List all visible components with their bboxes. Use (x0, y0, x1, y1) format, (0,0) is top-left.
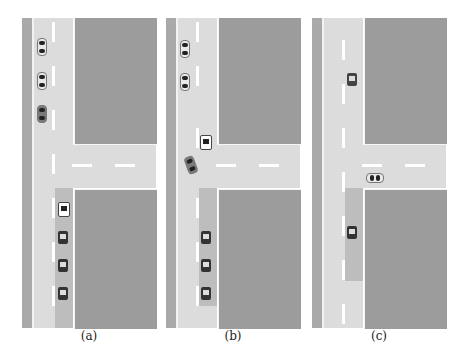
truck (58, 287, 68, 300)
lane-dash (52, 242, 55, 262)
truck (201, 259, 211, 272)
car-dark (347, 73, 357, 86)
truck (58, 259, 68, 272)
cross-lane-dash (259, 164, 279, 167)
lane-dash (52, 22, 55, 42)
caption-c: (c) (312, 329, 446, 343)
truck (201, 231, 211, 244)
lane-dash (52, 154, 55, 174)
lane-dash (342, 260, 345, 280)
lane-dash (196, 242, 199, 262)
lane-dash (52, 110, 55, 130)
car (37, 72, 47, 90)
lane-dash (342, 172, 345, 192)
lane-dash (342, 40, 345, 60)
cross-lane-dash (362, 164, 382, 167)
cross-lane-dash (216, 164, 236, 167)
car (37, 105, 47, 123)
city-block-bottom (218, 189, 301, 329)
lane-dash (342, 304, 345, 324)
caption-a: (a) (22, 329, 156, 343)
city-block-bottom (74, 189, 157, 329)
truck (347, 226, 357, 239)
cross-lane-dash (72, 164, 92, 167)
city-block-bottom (364, 189, 447, 329)
shoulder (22, 18, 32, 328)
lane-dash (52, 198, 55, 218)
panel-c: (c) (312, 18, 446, 328)
shoulder (166, 18, 176, 328)
lane-dash (196, 66, 199, 86)
truck-lead (200, 135, 212, 150)
shoulder (312, 18, 322, 328)
lane-dash (196, 22, 199, 42)
lane-dash (52, 286, 55, 306)
panel-a: (a) (22, 18, 156, 328)
car (180, 40, 190, 58)
truck-lead (58, 202, 70, 217)
city-block-top (218, 18, 301, 145)
lane-dash (196, 286, 199, 306)
car-cross-street (366, 173, 384, 183)
cross-lane-dash (405, 164, 425, 167)
truck (201, 287, 211, 300)
cross-lane-dash (115, 164, 135, 167)
city-block-top (74, 18, 157, 145)
lane-dash (196, 128, 199, 148)
car (180, 73, 190, 91)
lane-dash (196, 198, 199, 218)
caption-b: (b) (166, 329, 300, 343)
city-block-top (364, 18, 447, 145)
car (37, 38, 47, 56)
lane-dash (342, 128, 345, 148)
lane-dash (342, 216, 345, 236)
panel-b: (b) (166, 18, 300, 328)
lane-dash (52, 66, 55, 86)
truck (58, 231, 68, 244)
lane-dash (342, 84, 345, 104)
